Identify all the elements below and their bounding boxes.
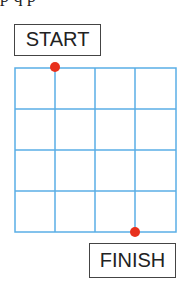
finish-label: FINISH	[89, 243, 176, 278]
start-point	[50, 62, 60, 72]
finish-point	[130, 227, 140, 237]
grid-lines	[15, 68, 176, 232]
